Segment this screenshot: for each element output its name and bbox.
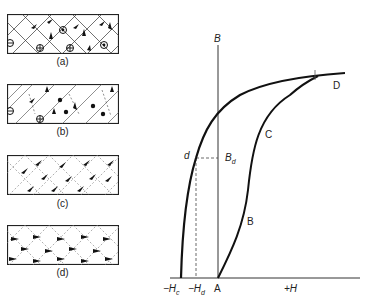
h-axis-label: +H (284, 283, 297, 294)
demagnetization-curve (181, 73, 345, 278)
curve-label-c: C (265, 129, 272, 140)
hc-label: −Hc (163, 283, 180, 296)
b-axis-label: B (214, 33, 221, 44)
origin-label: A (214, 283, 221, 294)
curve-label-b: B (247, 216, 254, 227)
bd-label: Bd (225, 152, 236, 165)
operating-point-label: d (184, 150, 190, 161)
hd-label: −Hd (188, 283, 205, 296)
curve-label-d: D (333, 80, 340, 91)
initial-magnetization-curve (218, 76, 318, 278)
